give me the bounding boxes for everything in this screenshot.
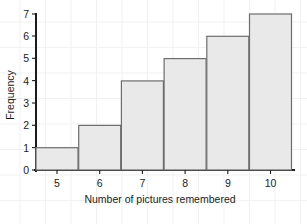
bar-chart: 0 1 2 3 4 5 6 7 5: [0, 0, 307, 224]
y-axis-title: Frequency: [4, 69, 16, 119]
x-axis-tick-labels: 5 6 7 8 9 10: [54, 177, 276, 189]
y-tick-label-3: 3: [23, 97, 29, 109]
y-tick-label-7: 7: [23, 8, 29, 20]
y-axis-tick-labels: 0 1 2 3 4 5 6 7: [23, 8, 29, 176]
x-tick-label-8: 8: [182, 177, 188, 189]
x-tick-label-7: 7: [139, 177, 145, 189]
x-tick-label-9: 9: [225, 177, 231, 189]
x-tick-label-6: 6: [97, 177, 103, 189]
bar-category-6: [79, 125, 121, 170]
y-tick-label-2: 2: [23, 119, 29, 131]
y-tick-label-0: 0: [23, 164, 29, 176]
bar-series-frequency: [36, 14, 292, 170]
y-tick-label-4: 4: [23, 75, 29, 87]
y-tick-label-6: 6: [23, 30, 29, 42]
bar-category-9: [207, 36, 249, 170]
bar-category-5: [36, 148, 78, 170]
bar-category-7: [121, 81, 163, 170]
x-tick-label-5: 5: [54, 177, 60, 189]
y-tick-label-1: 1: [23, 142, 29, 154]
y-tick-label-5: 5: [23, 52, 29, 64]
bar-category-8: [164, 59, 206, 170]
chart-plot-area: 0 1 2 3 4 5 6 7 5: [0, 0, 307, 224]
x-tick-label-10: 10: [265, 177, 277, 189]
bar-category-10: [250, 14, 292, 170]
x-axis-title: Number of pictures remembered: [84, 193, 235, 205]
